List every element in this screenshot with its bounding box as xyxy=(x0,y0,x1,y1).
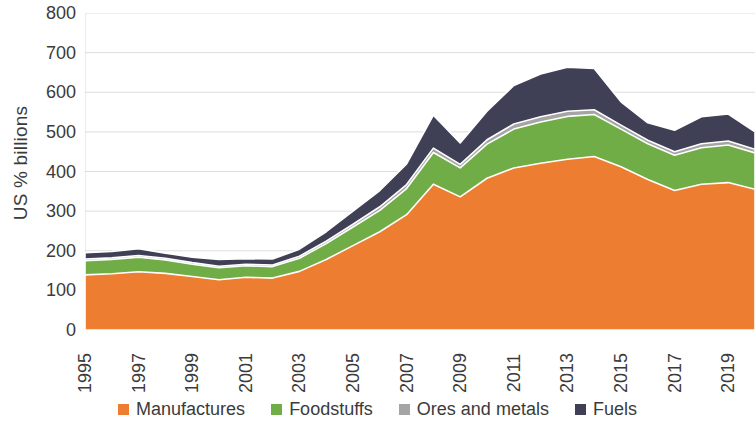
x-axis-tick: 2011 xyxy=(504,348,524,398)
legend-item-ores-and-metals[interactable]: Ores and metals xyxy=(399,400,549,418)
x-axis-tick: 2015 xyxy=(611,348,631,398)
y-axis-tick-label: 400 xyxy=(22,163,76,181)
y-axis-tick-label: 600 xyxy=(22,83,76,101)
x-axis-tick: 2017 xyxy=(665,348,685,398)
legend-swatch-icon xyxy=(575,404,586,415)
x-axis-tick-label: 2009 xyxy=(450,348,470,398)
x-axis-tick-label: 2005 xyxy=(343,348,363,398)
series-areas xyxy=(85,67,755,330)
x-axis-tick-label: 1997 xyxy=(129,348,149,398)
x-axis-tick: 1999 xyxy=(182,348,202,398)
x-axis-tick: 2003 xyxy=(289,348,309,398)
x-axis-tick-labels: 1995199719992001200320052007200920112013… xyxy=(0,336,755,386)
x-axis-tick-label: 2013 xyxy=(557,348,577,398)
x-axis-tick-label: 1995 xyxy=(75,348,95,398)
x-axis-tick: 2013 xyxy=(557,348,577,398)
x-axis-tick: 2005 xyxy=(343,348,363,398)
x-axis-tick-label: 2011 xyxy=(504,348,524,398)
x-axis-tick: 1995 xyxy=(75,348,95,398)
y-axis-tick-labels: 8007006005004003002001000 xyxy=(22,0,76,340)
x-axis-tick-label: 2019 xyxy=(718,348,738,398)
y-axis-tick-label: 800 xyxy=(22,4,76,22)
y-axis-tick-label: 300 xyxy=(22,202,76,220)
legend-swatch-icon xyxy=(399,404,410,415)
x-axis-tick-label: 2003 xyxy=(289,348,309,398)
legend-label: Foodstuffs xyxy=(289,400,373,418)
y-axis-tick-label: 700 xyxy=(22,44,76,62)
stacked-area-chart: US % billions 8007006005004003002001000 … xyxy=(0,0,755,426)
legend-swatch-icon xyxy=(271,404,282,415)
legend-label: Fuels xyxy=(593,400,637,418)
legend-item-fuels[interactable]: Fuels xyxy=(575,400,637,418)
x-axis-tick-label: 2017 xyxy=(665,348,685,398)
x-axis-tick-label: 2001 xyxy=(236,348,256,398)
x-axis-tick: 2019 xyxy=(718,348,738,398)
legend-label: Manufactures xyxy=(136,400,245,418)
chart-legend: ManufacturesFoodstuffsOres and metalsFue… xyxy=(0,396,755,422)
y-axis-tick-label: 100 xyxy=(22,281,76,299)
y-axis-tick-label: 200 xyxy=(22,242,76,260)
plot-svg xyxy=(85,13,755,330)
legend-label: Ores and metals xyxy=(417,400,549,418)
x-axis-tick-label: 1999 xyxy=(182,348,202,398)
x-axis-tick-label: 2015 xyxy=(611,348,631,398)
x-axis-tick: 2009 xyxy=(450,348,470,398)
legend-item-manufactures[interactable]: Manufactures xyxy=(118,400,245,418)
legend-item-foodstuffs[interactable]: Foodstuffs xyxy=(271,400,373,418)
x-axis-tick: 2001 xyxy=(236,348,256,398)
x-axis-tick: 2007 xyxy=(397,348,417,398)
x-axis-tick: 1997 xyxy=(129,348,149,398)
x-axis-tick-label: 2007 xyxy=(397,348,417,398)
legend-swatch-icon xyxy=(118,404,129,415)
plot-area xyxy=(85,13,755,330)
y-axis-tick-label: 500 xyxy=(22,123,76,141)
